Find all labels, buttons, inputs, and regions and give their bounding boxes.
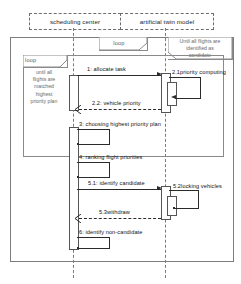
message-5-2-line-top	[169, 190, 199, 191]
message-2-1-line-top	[169, 77, 201, 78]
lifeline-label-artificial-twin-model: artificial twin model	[140, 18, 194, 25]
inner-guard-line-2: flights are	[23, 76, 65, 83]
message-2-1-label[interactable]: 2.1priority computing	[172, 69, 226, 75]
message-5-2-arrowhead	[173, 207, 175, 209]
lifeline-header-scheduling-center[interactable]: scheduling center	[29, 13, 121, 30]
message-5-3-label[interactable]: 5.3withdraw	[99, 209, 130, 215]
message-3-line-bottom	[79, 144, 110, 145]
fragment-inner-loop-operator-label: loop	[25, 56, 59, 65]
inner-guard-line-1: until all	[23, 69, 65, 76]
message-2-1-arrowhead	[171, 95, 176, 99]
inner-guard-line-5: priority plan	[23, 98, 65, 105]
lifeline-label-scheduling-center: scheduling center	[50, 18, 100, 25]
message-4-line-bottom	[79, 177, 110, 178]
message-3-line-top	[77, 129, 110, 130]
message-3-arrowhead	[77, 143, 79, 145]
message-5-3-arrowhead	[74, 214, 82, 223]
fragment-inner-loop-guard-label: until all flights are matched highest pr…	[23, 69, 65, 105]
sequence-diagram-canvas: scheduling center artificial twin model …	[0, 0, 241, 284]
inner-guard-line-3: matched	[23, 83, 65, 90]
message-5-1-line	[77, 189, 161, 190]
message-5-2-label[interactable]: 5.2locking vehicles	[173, 183, 222, 189]
message-6-arrowhead	[77, 247, 79, 249]
message-2-2-label[interactable]: 2.2: vehicle priority	[92, 100, 141, 106]
guard-line-2: identified as	[168, 45, 232, 52]
activation-twin-model-self-2	[167, 196, 177, 216]
message-5-2-line-right	[198, 190, 199, 208]
message-5-1-label[interactable]: 5.1: identify candidate	[88, 180, 145, 186]
message-2-2-arrowhead	[74, 105, 82, 114]
message-4-line-top	[77, 162, 110, 163]
message-4-line-right	[109, 162, 110, 177]
message-2-1-line-right	[200, 77, 201, 98]
message-1-label[interactable]: 1: allocate task	[87, 66, 126, 72]
message-2-2-line	[79, 109, 161, 110]
lifeline-header-artificial-twin-model[interactable]: artificial twin model	[120, 13, 214, 30]
guard-line-1: Until all flights are	[168, 38, 232, 45]
message-3-label[interactable]: 3: choosing highest priority plan	[79, 121, 161, 127]
message-4-arrowhead	[77, 176, 79, 178]
message-5-1-arrowhead	[157, 186, 162, 190]
activation-twin-model-self-1	[167, 82, 177, 106]
fragment-outer-loop-operator-label: loop	[99, 39, 139, 48]
message-1-line	[77, 75, 161, 76]
message-4-label[interactable]: 4: ranking flight priorities	[79, 154, 142, 160]
message-5-2-line-bottom	[175, 208, 199, 209]
message-5-3-line	[79, 218, 161, 219]
message-6-line-right	[109, 237, 110, 248]
inner-guard-line-4: highest	[23, 91, 65, 98]
message-6-line-bottom	[79, 248, 110, 249]
message-6-label[interactable]: 6: identify non-candidate	[79, 229, 142, 235]
message-3-line-right	[109, 129, 110, 144]
message-1-arrowhead	[157, 72, 162, 76]
message-2-1-line-bottom	[175, 98, 201, 99]
message-6-line-top	[77, 237, 110, 238]
